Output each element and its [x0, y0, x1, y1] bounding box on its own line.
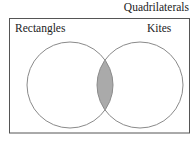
- set-label-rectangles: Rectangles: [15, 22, 65, 34]
- universe-label: Quadrilaterals: [124, 1, 189, 13]
- set-label-kites: Kites: [147, 22, 171, 34]
